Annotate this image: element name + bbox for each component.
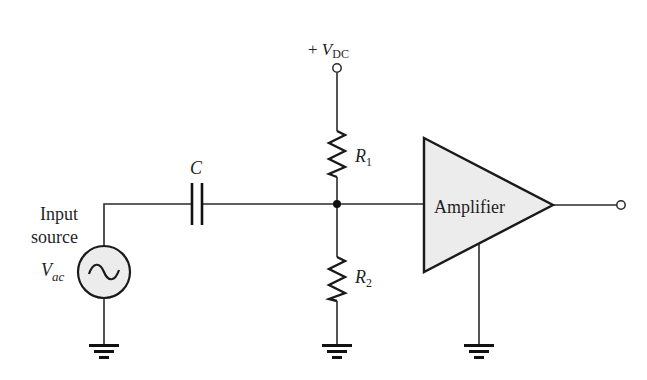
junction-node [333, 200, 341, 208]
wire-source-to-capacitor [104, 204, 192, 246]
circuit-diagram: + VDC R1 R2 C Input source Vac Amplifie [0, 0, 647, 380]
input-source-label-line1: Input [40, 204, 78, 224]
resistor-r1: R1 [329, 131, 372, 177]
input-source-label-line2: source [31, 227, 78, 247]
r2-ground-icon [322, 344, 352, 359]
vdc-terminal[interactable] [333, 64, 341, 72]
resistor-r1-zigzag-icon [329, 131, 345, 177]
amplifier: Amplifier [424, 138, 553, 272]
vac-label: Vac [41, 260, 65, 284]
amplifier-label: Amplifier [434, 197, 505, 217]
resistor-r2: R2 [329, 257, 372, 301]
output-terminal[interactable] [617, 201, 625, 209]
resistor-r2-zigzag-icon [329, 257, 345, 301]
vdc-label: + VDC [308, 40, 349, 61]
ac-input-source: Input source Vac [31, 204, 130, 298]
source-ground-icon [89, 344, 119, 359]
capacitor-c: C [190, 158, 203, 225]
amplifier-ground-icon [464, 344, 494, 359]
r1-label: R1 [354, 146, 372, 169]
vdc-supply: + VDC [308, 40, 349, 72]
r2-label: R2 [354, 267, 372, 290]
capacitor-label: C [190, 158, 203, 178]
